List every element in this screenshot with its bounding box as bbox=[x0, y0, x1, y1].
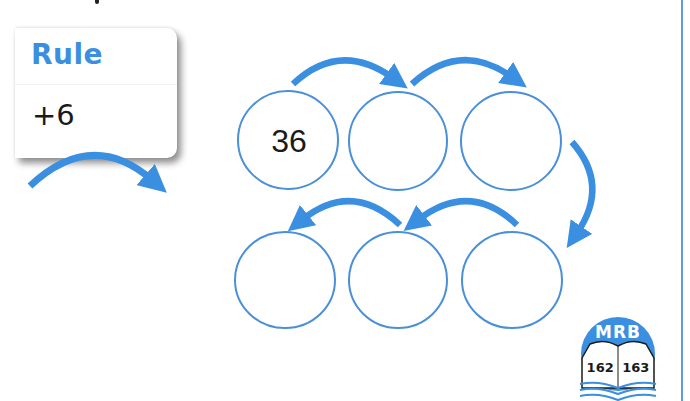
mrb-reference-badge: MRB 162 163 bbox=[578, 316, 658, 401]
mrb-label: MRB bbox=[578, 322, 658, 342]
curved-arrow-left-icon bbox=[418, 201, 517, 225]
chain-circle-bottom-middle[interactable] bbox=[349, 232, 447, 328]
chain-circle-top-middle[interactable] bbox=[349, 92, 447, 190]
chain-circle-bottom-left[interactable] bbox=[235, 232, 335, 328]
curved-arrow-down-icon bbox=[572, 142, 592, 233]
curved-arrow-left-icon bbox=[302, 201, 400, 225]
chain-circle-value: 36 bbox=[271, 123, 307, 160]
curved-arrow-right-icon bbox=[30, 155, 152, 186]
chain-circle-bottom-right[interactable] bbox=[462, 232, 562, 328]
curved-arrow-right-icon bbox=[293, 60, 393, 84]
curved-arrow-right-icon bbox=[412, 60, 512, 84]
chain-circle-top-right[interactable] bbox=[461, 92, 561, 190]
mrb-page-numbers: 162 163 bbox=[578, 360, 658, 375]
